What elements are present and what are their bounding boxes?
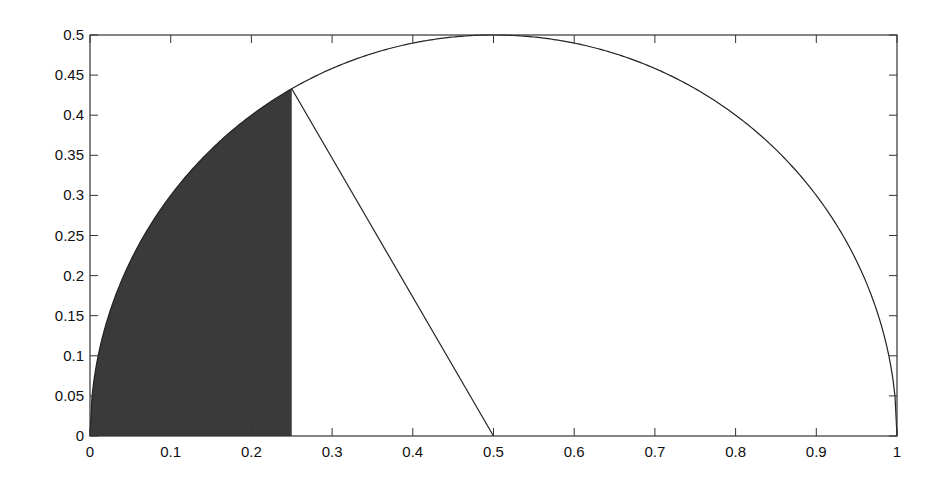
x-tick-label: 0.3 xyxy=(322,443,343,460)
y-tick-label: 0.2 xyxy=(63,267,84,284)
x-tick-label: 0 xyxy=(86,443,94,460)
x-tick-label: 0.6 xyxy=(564,443,585,460)
y-tick-label: 0.1 xyxy=(63,347,84,364)
y-tick-label: 0 xyxy=(76,427,84,444)
radius-line xyxy=(292,89,494,436)
y-tick-label: 0.05 xyxy=(55,387,84,404)
y-tick-label: 0.15 xyxy=(55,307,84,324)
shaded-area xyxy=(90,89,292,436)
x-tick-label: 0.9 xyxy=(806,443,827,460)
y-tick-label: 0.35 xyxy=(55,146,84,163)
x-tick-label: 0.4 xyxy=(402,443,423,460)
shaded-region xyxy=(90,89,292,436)
y-tick-label: 0.45 xyxy=(55,66,84,83)
chart: 00.10.20.30.40.50.60.70.80.91 00.050.10.… xyxy=(0,0,949,489)
x-tick-label: 0.2 xyxy=(241,443,262,460)
x-tick-label: 1 xyxy=(893,443,901,460)
x-tick-label: 0.1 xyxy=(160,443,181,460)
y-tick-label: 0.4 xyxy=(63,106,84,123)
x-tick-label: 0.5 xyxy=(483,443,504,460)
y-tick-label: 0.5 xyxy=(63,26,84,43)
y-tick-label: 0.25 xyxy=(55,227,84,244)
y-tick-label: 0.3 xyxy=(63,186,84,203)
x-tick-label: 0.8 xyxy=(725,443,746,460)
x-tick-label: 0.7 xyxy=(644,443,665,460)
